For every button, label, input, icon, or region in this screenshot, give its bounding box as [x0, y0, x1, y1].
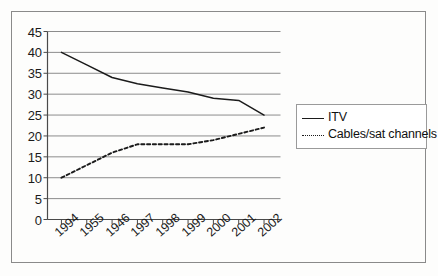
x-tick-label: 2001: [229, 210, 258, 238]
x-tick-label: 1998: [153, 210, 182, 238]
x-tick-label: 1997: [128, 210, 157, 238]
legend-line-swatch-solid-icon: [301, 113, 325, 123]
legend-label: ITV: [328, 111, 347, 124]
legend-item-cables-sat-channels: Cables/sat channels: [301, 126, 423, 143]
chart-legend: ITV Cables/sat channels: [296, 104, 427, 149]
legend-line-swatch-dotted-icon: [301, 130, 325, 140]
legend-item-itv: ITV: [301, 109, 423, 126]
x-tick-label: 2002: [255, 210, 284, 238]
x-tick-label: 2000: [204, 210, 233, 238]
x-tick-label: 1946: [103, 210, 132, 238]
x-tick-label: 1994: [52, 210, 81, 238]
x-tick-label: 1999: [179, 210, 208, 238]
x-tick-label: 1955: [77, 210, 106, 238]
legend-label: Cables/sat channels: [328, 128, 437, 141]
chart-figure: 051015202530354045 199419551946199719981…: [0, 0, 438, 276]
